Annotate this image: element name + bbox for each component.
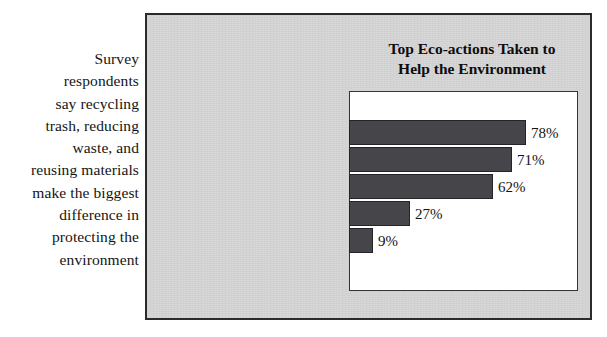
caption-line: reusing materials	[6, 159, 139, 181]
caption-line: protecting the	[6, 226, 139, 248]
caption-line: say recycling	[6, 93, 139, 115]
chart-title-line1: Top Eco-actions Taken to	[361, 39, 583, 59]
caption-text: Survey respondents say recycling trash, …	[6, 48, 139, 271]
chart-title-line2: Help the Environment	[361, 59, 583, 79]
caption-line: difference in	[6, 204, 139, 226]
caption-line: trash, reducing	[6, 115, 139, 137]
caption-line: make the biggest	[6, 182, 139, 204]
caption-line: respondents	[6, 70, 139, 92]
chart-panel: Top Eco-actions Taken to Help the Enviro…	[145, 13, 592, 320]
caption-line: environment	[6, 249, 139, 271]
caption-line: Survey	[6, 48, 139, 70]
chart-title: Top Eco-actions Taken to Help the Enviro…	[361, 39, 583, 79]
plot-area	[349, 91, 578, 291]
caption-line: waste, and	[6, 137, 139, 159]
